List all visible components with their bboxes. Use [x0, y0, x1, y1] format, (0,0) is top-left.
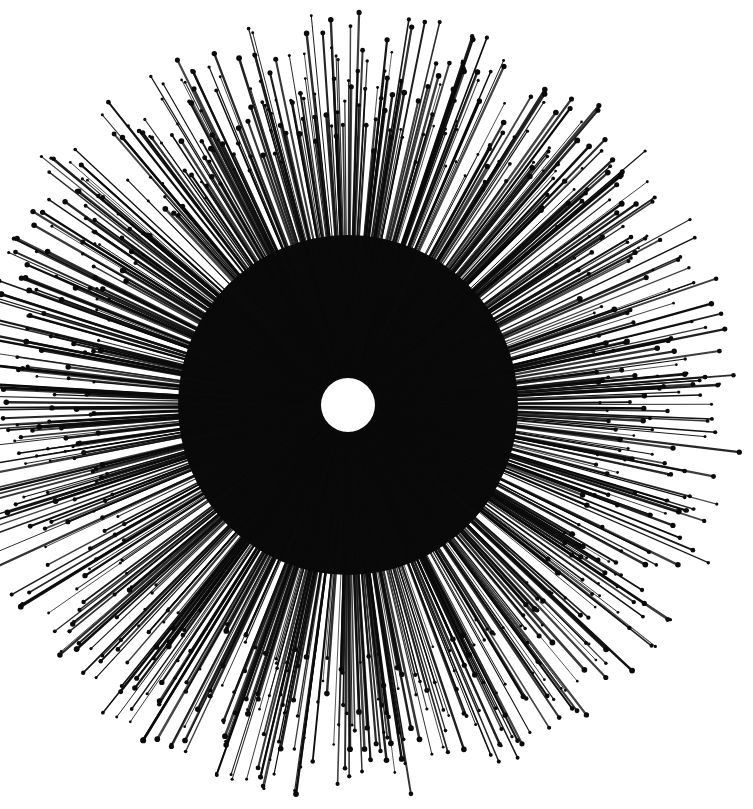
starburst-canvas: [0, 0, 753, 809]
center-hole: [321, 378, 375, 432]
